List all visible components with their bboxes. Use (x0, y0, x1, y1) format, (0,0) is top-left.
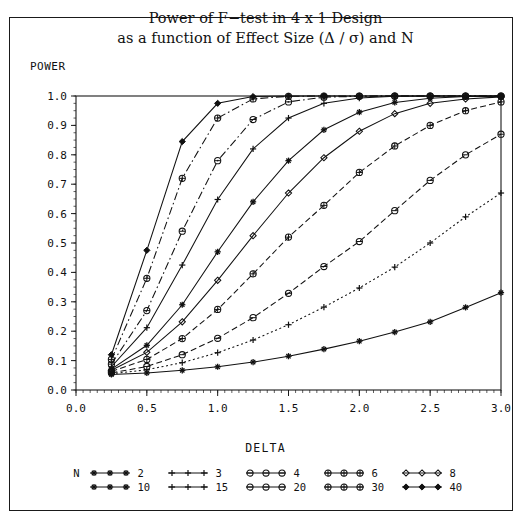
legend-item: 6 (322, 467, 400, 479)
svg-text:0.4: 0.4 (47, 266, 67, 279)
svg-text:1.5: 1.5 (279, 402, 299, 415)
svg-text:1.0: 1.0 (208, 402, 228, 415)
diamond-open-marker (400, 467, 444, 479)
svg-text:1.0: 1.0 (47, 90, 67, 103)
plus-marker (166, 467, 210, 479)
legend-item-label: 40 (444, 481, 463, 493)
legend-item: 15 (166, 481, 244, 493)
legend-item-label: 4 (288, 467, 300, 479)
legend-item: 2 (88, 467, 166, 479)
legend-item-label: 3 (210, 467, 222, 479)
series-line (108, 93, 504, 372)
svg-text:0.5: 0.5 (137, 402, 157, 415)
legend-item-label: 8 (444, 467, 456, 479)
legend-item: 20 (244, 481, 322, 493)
legend-item: 4 (244, 467, 322, 479)
circle-dash-marker (244, 467, 288, 479)
svg-text:0.8: 0.8 (47, 149, 67, 162)
svg-text:0.6: 0.6 (47, 208, 67, 221)
legend-item-label: 30 (366, 481, 385, 493)
legend-item-label: 2 (132, 467, 144, 479)
legend-row-2: 10 15 20 30 40 (0, 480, 531, 494)
series-line (108, 93, 504, 367)
star-marker (88, 467, 132, 479)
plus-marker (166, 481, 210, 493)
legend-item-label: 10 (132, 481, 151, 493)
legend-item-label: 15 (210, 481, 229, 493)
svg-text:0.9: 0.9 (47, 119, 67, 132)
legend-item-label: 6 (366, 467, 378, 479)
legend-title: N (54, 467, 88, 479)
series-line (108, 93, 504, 370)
diamond-filled-marker (400, 481, 444, 493)
legend-item: 40 (400, 481, 478, 493)
legend-item: 8 (400, 467, 478, 479)
svg-text:0.7: 0.7 (47, 178, 67, 191)
series-line (108, 94, 504, 374)
svg-text:0.5: 0.5 (47, 237, 67, 250)
legend-item: 3 (166, 467, 244, 479)
legend-item: 10 (88, 481, 166, 493)
svg-text:0.2: 0.2 (47, 325, 67, 338)
svg-text:0.1: 0.1 (47, 355, 67, 368)
svg-text:0.0: 0.0 (66, 402, 86, 415)
star-marker (88, 481, 132, 493)
chart-plot-area: 0.00.10.20.30.40.50.60.70.80.91.00.00.51… (0, 0, 531, 529)
svg-text:2.5: 2.5 (420, 402, 440, 415)
svg-text:0.3: 0.3 (47, 296, 67, 309)
svg-text:3.0: 3.0 (491, 402, 511, 415)
series-line (108, 131, 504, 376)
series-line (108, 99, 504, 375)
legend-item: 30 (322, 481, 400, 493)
svg-text:0.0: 0.0 (47, 384, 67, 397)
svg-text:2.0: 2.0 (349, 402, 369, 415)
series-line (108, 290, 504, 378)
circle-dash-marker (244, 481, 288, 493)
circle-plus-marker (322, 467, 366, 479)
legend-row-1: N 2 3 4 6 8 (0, 466, 531, 480)
chart-legend: N 2 3 4 6 8 10 15 (0, 466, 531, 494)
legend-item-label: 20 (288, 481, 307, 493)
series-line (108, 93, 504, 358)
circle-plus-marker (322, 481, 366, 493)
